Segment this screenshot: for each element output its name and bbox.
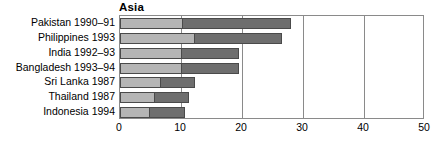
bar-segment [120,63,181,74]
y-axis-tick-label: Pakistan 1990–91 [0,17,115,28]
x-axis-tick-label: 20 [235,121,247,133]
bar-segment [120,77,160,88]
plot-area [119,15,424,119]
x-axis-tick-label: 10 [174,121,186,133]
bar-segment [154,92,189,103]
bar-segment [182,18,291,29]
y-axis-tick-label: Philippines 1993 [0,32,115,43]
chart-figure: Asia Pakistan 1990–91Philippines 1993Ind… [0,0,437,144]
x-axis-tick-label: 50 [418,121,430,133]
bar-segment [181,48,239,59]
bar-segment [149,107,185,118]
bar-segment [120,107,149,118]
bar-segment [181,63,239,74]
y-axis-tick-label: Sri Lanka 1987 [0,76,115,87]
y-axis-tick-label: India 1992–93 [0,47,115,58]
x-axis-labels: 01020304050 [0,121,437,141]
bar-segment [194,33,281,44]
y-axis-tick-label: Bangladesh 1993–94 [0,62,115,73]
gridline-40 [364,16,365,118]
x-axis-tick-label: 0 [116,121,122,133]
bar-segment [120,92,154,103]
bar-segment [160,77,195,88]
gridline-30 [303,16,304,118]
x-axis-tick-label: 30 [296,121,308,133]
gridline-20 [242,16,243,118]
y-axis-tick-label: Thailand 1987 [0,91,115,102]
x-axis-tick-label: 40 [357,121,369,133]
chart-title: Asia [119,1,144,13]
y-axis-labels: Pakistan 1990–91Philippines 1993India 19… [0,15,115,119]
y-axis-tick-label: Indonesia 1994 [0,106,115,117]
bar-segment [120,33,194,44]
bar-segment [120,48,181,59]
bar-segment [120,18,182,29]
